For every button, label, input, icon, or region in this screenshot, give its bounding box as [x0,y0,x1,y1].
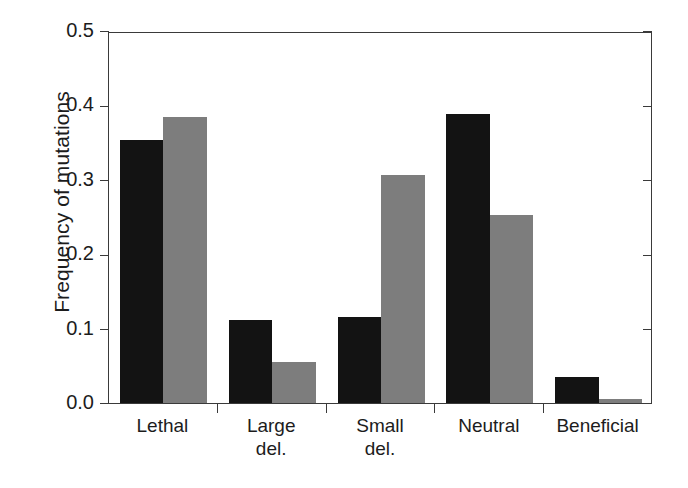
plot-area [108,32,652,404]
y-tick-mark [100,329,109,330]
bar-small-del-series-2 [381,175,425,403]
bar-small-del-series-1 [338,317,382,403]
x-tick-mark [326,404,327,413]
bar-large-del-series-1 [229,320,273,403]
y-tick-label: 0.0 [26,391,94,414]
y-tick-mark [100,106,109,107]
y-tick-label: 0.4 [26,93,94,116]
y-tick-mark [100,255,109,256]
y-tick-label: 0.2 [26,242,94,265]
bar-lethal-series-2 [163,117,207,403]
y-tick-mark-right [643,403,652,404]
y-tick-label: 0.5 [26,19,94,42]
y-tick-mark-right [643,31,652,32]
y-tick-mark-right [643,106,652,107]
bar-neutral-series-2 [490,215,534,403]
bar-beneficial-series-1 [555,377,599,403]
x-tick-mark [543,404,544,413]
x-tick-mark [217,404,218,413]
x-tick-mark [434,404,435,413]
y-tick-mark-right [643,329,652,330]
y-tick-label: 0.3 [26,168,94,191]
bar-lethal-series-1 [120,140,164,403]
x-tick-label: Beneficial [523,414,673,437]
x-tick-label-line: del. [305,437,455,460]
y-tick-mark [100,180,109,181]
y-tick-mark [100,31,109,32]
y-tick-mark-right [643,255,652,256]
y-tick-label: 0.1 [26,317,94,340]
y-tick-mark-right [643,180,652,181]
bar-large-del-series-2 [272,362,316,403]
y-tick-mark [100,403,109,404]
bar-beneficial-series-2 [599,399,643,403]
bar-chart-figure: Frequency of mutations 0.00.10.20.30.40.… [0,0,688,488]
bar-neutral-series-1 [446,114,490,403]
x-tick-label-line: Beneficial [523,414,673,437]
bars-container [109,33,651,403]
